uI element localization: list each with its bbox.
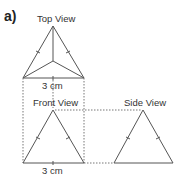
- side-view: [114, 110, 173, 163]
- projection-lines: [23, 78, 141, 163]
- front-view-title: Front View: [33, 97, 78, 108]
- top-view-title: Top View: [37, 13, 76, 24]
- side-view-outline: [114, 110, 173, 163]
- front-view: [23, 110, 84, 165]
- side-view-title: Side View: [124, 97, 166, 108]
- front-view-outline: [23, 110, 84, 163]
- part-label: a): [4, 8, 16, 24]
- top-view: [23, 26, 84, 80]
- orthographic-views-diagram: a) Top View 3 cm Front View 3 cm Side Vi…: [0, 0, 179, 175]
- top-view-dimension: 3 cm: [42, 80, 63, 91]
- front-view-dimension: 3 cm: [42, 165, 63, 175]
